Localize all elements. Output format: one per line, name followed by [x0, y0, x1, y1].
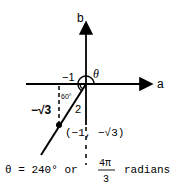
caption-suffix: radians [124, 164, 170, 176]
polar-angle-diagram: b a θ −1 60° −√3 2 (−1, −√3) θ = 240° or… [0, 0, 185, 195]
theta-label: θ [93, 67, 99, 81]
x-leg-label: −1 [62, 71, 75, 83]
point-label: (−1, −√3) [65, 127, 124, 139]
reference-angle-label: 60° [61, 93, 72, 100]
axis-label-a: a [157, 77, 164, 91]
caption-numerator: 4π [99, 158, 111, 169]
axis-label-b: b [77, 11, 84, 25]
caption-prefix: θ = 240° or [5, 164, 78, 176]
caption-denominator: 3 [103, 174, 109, 185]
hypotenuse-label: 2 [75, 103, 81, 115]
point-marker [56, 122, 62, 128]
y-leg-label: −√3 [31, 103, 52, 117]
